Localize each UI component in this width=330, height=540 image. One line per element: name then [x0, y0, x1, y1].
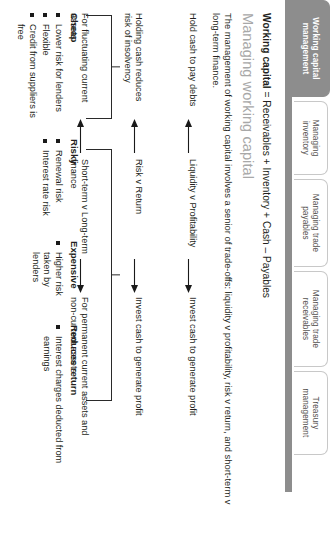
tab-label: Managing trade receivables: [301, 276, 321, 362]
list-item-label: Higher risk taken by lenders: [31, 252, 64, 296]
arrow-left-icon: [184, 119, 193, 155]
slide-canvas: Working capital management Managing inve…: [0, 0, 330, 540]
tradeoff-left-text: Hold cash to pay debts: [187, 13, 198, 117]
tab-label: Treasury management: [301, 376, 321, 450]
bullet-square-icon: [56, 325, 60, 329]
page-title: Managing working capital: [240, 13, 256, 179]
group-list: Lower risk for lenders Flexible Credit f…: [15, 13, 64, 135]
working-capital-equation: Working capital = Receivables + Inventor…: [261, 13, 272, 298]
tradeoff-middle-text: Risk v Return: [133, 159, 144, 255]
list-item: Credit from suppliers is free: [15, 13, 38, 135]
group-title: Cheap: [68, 13, 80, 135]
list-item: Interest rate risk: [39, 139, 51, 231]
group-expensive: Expensive Higher risk taken by lenders: [28, 241, 80, 317]
tab-label: Working capital management: [301, 5, 321, 92]
equation-term: Working capital: [261, 13, 272, 89]
list-item-label: Interest rate risk: [41, 150, 51, 216]
tab-managing-trade-payables[interactable]: Managing trade payables: [294, 179, 328, 267]
tradeoff-row: Hold cash to pay debts Liquidity v Profi…: [171, 13, 198, 529]
tradeoff-middle-text: Liquidity v Profitability: [187, 159, 198, 255]
bracket-long-term-finance: [86, 149, 112, 401]
tradeoff-row: Holding cash reduces risk of insolvency …: [117, 13, 144, 529]
bracket-short-term-finance: [86, 15, 112, 119]
list-item-label: Credit from suppliers is free: [16, 24, 38, 118]
bullet-square-icon: [56, 241, 60, 245]
equation-expression: = Receivables + Inventory + Cash – Payab…: [261, 89, 272, 298]
group-list: Interest charges deducted from earnings: [41, 325, 64, 475]
group-list: Renewal risk Interest rate risk: [39, 139, 64, 231]
list-item-label: Flexible: [41, 24, 51, 56]
arrow-right-icon: [184, 257, 193, 293]
group-risky: Risky Renewal risk Interest rate risk: [38, 139, 80, 231]
bullet-square-icon: [56, 13, 60, 17]
bracket-stem: [111, 274, 120, 275]
tab-label: Managing trade payables: [301, 184, 321, 262]
list-item: Lower risk for lenders: [52, 13, 64, 135]
bullet-square-icon: [43, 139, 47, 143]
bracket-group: [82, 13, 112, 529]
list-item-label: Renewal risk: [54, 150, 64, 203]
group-list: Higher risk taken by lenders: [29, 241, 64, 317]
tab-strip-rail: [285, 0, 292, 492]
tradeoff-right-text: Invest cash to generate profit: [133, 297, 144, 437]
list-item-label: Lower risk for lenders: [54, 24, 64, 112]
group-title: Reduces return: [68, 325, 80, 475]
arrow-left-icon: [130, 119, 139, 155]
tab-working-capital-management[interactable]: Working capital management: [292, 0, 330, 97]
tradeoff-right-text: Invest cash to generate profit: [187, 297, 198, 437]
list-item: Higher risk taken by lenders: [29, 241, 64, 317]
bullet-square-icon: [30, 13, 34, 17]
group-title: Expensive: [68, 241, 80, 317]
tab-treasury-management[interactable]: Treasury management: [294, 371, 328, 455]
group-title: Risky: [68, 139, 80, 231]
group-reduces-return: Reduces return Interest charges deducted…: [39, 325, 80, 475]
tradeoff-rows: Hold cash to pay debts Liquidity v Profi…: [117, 13, 198, 529]
group-cheap: Cheap Lower risk for lenders Flexible Cr…: [13, 13, 80, 135]
list-item: Flexible: [39, 13, 51, 135]
tab-managing-trade-receivables[interactable]: Managing trade receivables: [294, 271, 328, 367]
tab-managing-inventory[interactable]: Managing inventory: [294, 101, 328, 175]
arrow-right-icon: [130, 257, 139, 293]
list-item: Interest charges deducted from earnings: [41, 325, 64, 475]
bullet-square-icon: [56, 139, 60, 143]
bracket-stem: [111, 66, 120, 67]
bullet-square-icon: [43, 13, 47, 17]
list-item-label: Interest charges deducted from earnings: [42, 336, 64, 463]
tab-label: Managing inventory: [301, 106, 321, 170]
list-item: Renewal risk: [52, 139, 64, 231]
tab-strip: Working capital management Managing inve…: [280, 0, 330, 540]
intro-paragraph: The management of working capital involv…: [209, 13, 234, 525]
tradeoff-left-text: Holding cash reduces risk of insolvency: [122, 13, 144, 117]
